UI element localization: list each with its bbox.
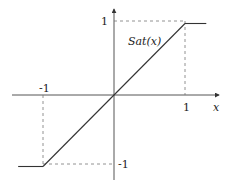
x-tick-label-pos: 1 [183,101,190,114]
x-axis-label: x [213,101,220,114]
y-tick-label-neg: -1 [118,158,129,171]
y-tick-label-pos: 1 [101,15,108,28]
function-label: Sat(x) [128,35,161,48]
saturation-diagram: 1 -1 1 x -1 Sat(x) [0,0,229,191]
x-tick-label-neg: -1 [39,82,50,95]
curve-segment-1 [43,95,114,167]
